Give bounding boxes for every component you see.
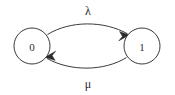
diagram-canvas: λ μ 0 1: [0, 0, 175, 95]
edge-1-to-0: μ: [45, 51, 127, 91]
edge-0-to-1-path: [48, 24, 128, 35]
node-state-0-label: 0: [29, 41, 35, 53]
edge-1-to-0-label: μ: [85, 77, 91, 91]
edge-0-to-1-label: λ: [85, 4, 91, 18]
state-transition-diagram: λ μ 0 1: [0, 0, 175, 95]
node-state-0: 0: [14, 28, 50, 64]
node-state-1-label: 1: [139, 41, 145, 53]
edge-0-to-1: λ: [48, 4, 130, 41]
edge-1-to-0-path: [47, 58, 127, 69]
node-state-1: 1: [124, 28, 160, 64]
